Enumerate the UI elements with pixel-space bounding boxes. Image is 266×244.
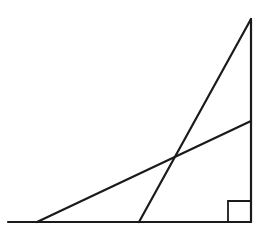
- shallow-line: [37, 121, 251, 222]
- right-angle-marker: [228, 201, 251, 222]
- geometry-diagram: [0, 0, 266, 244]
- steep-line: [139, 19, 251, 222]
